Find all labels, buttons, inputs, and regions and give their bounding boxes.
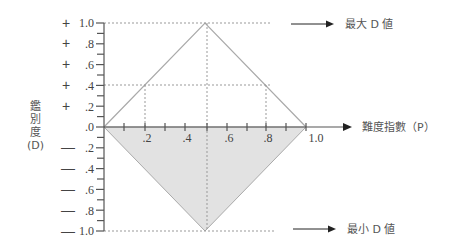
x-axis-title: 難度指數（P） (362, 120, 435, 134)
y-tick-label: .8 (85, 204, 94, 218)
y-sign: + (62, 35, 70, 51)
y-axis-title-char: 別 (27, 113, 43, 126)
y-axis (96, 23, 104, 231)
max-d-arrow-icon (326, 21, 334, 28)
x-tick-label: .8 (264, 131, 273, 145)
y-tick-label: .6 (85, 183, 94, 197)
max-d-label: 最大 D 値 (345, 17, 393, 31)
y-tick-label: 1.0 (79, 16, 94, 30)
y-axis-title-char: 度 (27, 126, 43, 139)
y-sign: + (62, 15, 70, 31)
y-sign: + (62, 98, 70, 114)
y-tick-label: .2 (85, 100, 94, 114)
y-sign: — (61, 181, 75, 197)
y-tick-label: .0 (85, 120, 94, 134)
y-tick-label: .4 (85, 79, 94, 93)
y-tick-label: .4 (85, 162, 94, 176)
y-axis-title-char: (D) (27, 139, 43, 152)
y-tick-label: .6 (85, 58, 94, 72)
y-tick-label: 1.0 (79, 224, 94, 238)
max-d-line (104, 23, 306, 127)
x-tick-label: .6 (225, 131, 234, 145)
discrimination-difficulty-diagram: + + + + + — — — — — 1.0 .8 .6 .4 .2 .0 .… (0, 0, 456, 252)
y-tick-signs: + + + + + — — — — — (61, 15, 75, 239)
x-axis-arrow-icon (343, 123, 352, 131)
min-d-label: 最小 D 値 (347, 223, 395, 236)
x-tick-label: 1.0 (309, 131, 324, 145)
x-tick-label: .2 (143, 131, 152, 145)
y-sign: + (62, 77, 70, 93)
y-tick-label: .8 (85, 37, 94, 51)
min-d-arrow-icon (328, 226, 336, 233)
y-axis-title-char: 鑑 (27, 100, 43, 113)
y-tick-labels: 1.0 .8 .6 .4 .2 .0 .2 .4 .6 .8 1.0 (79, 16, 94, 238)
y-tick-label: .2 (85, 141, 94, 155)
min-d-shaded-region (104, 127, 306, 231)
y-sign: + (62, 56, 70, 72)
y-sign: — (61, 139, 75, 155)
y-sign: — (61, 202, 75, 218)
y-sign: — (61, 160, 75, 176)
x-tick-label: .4 (183, 131, 192, 145)
y-axis-title: 鑑 別 度 (D) (27, 100, 43, 152)
y-sign: — (61, 223, 75, 239)
